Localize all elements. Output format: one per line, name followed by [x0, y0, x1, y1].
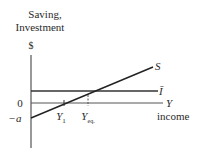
x-axis-symbol: Y [166, 97, 174, 109]
y-axis-label-line1: Saving, [28, 8, 62, 20]
saving-investment-chart: Saving, Investment $ 0 −a Y1 Yeq. S Ī Y … [0, 0, 197, 158]
x-axis-label: income [157, 110, 189, 122]
y-tick-zero: 0 [17, 97, 23, 109]
y-tick-intercept: −a [9, 112, 22, 124]
saving-line [31, 67, 153, 118]
saving-series-label: S [155, 60, 161, 72]
x-tick-yeq: Yeq. [81, 110, 95, 124]
y-axis-label-line2: Investment [16, 21, 65, 33]
investment-series-label: Ī [158, 85, 164, 97]
x-tick-y1: Y1 [56, 110, 66, 125]
y-axis-unit: $ [29, 40, 34, 51]
